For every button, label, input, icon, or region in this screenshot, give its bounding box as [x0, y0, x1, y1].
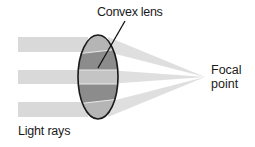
focal-point-label-line1: Focal	[211, 63, 242, 77]
refracted-ray-top	[108, 37, 205, 77]
refracted-ray-bottom	[108, 77, 205, 117]
incoming-ray-bottom	[18, 102, 88, 117]
convex-lens-label: Convex lens	[97, 5, 163, 19]
focal-point-label-line2: point	[211, 77, 242, 91]
light-rays-label: Light rays	[18, 124, 70, 138]
focal-point-label: Focal point	[211, 63, 242, 91]
incoming-ray-top	[18, 37, 88, 52]
